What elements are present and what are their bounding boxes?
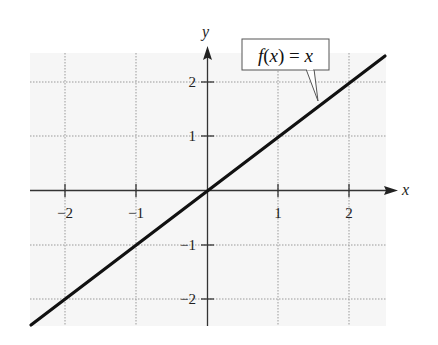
y-tick-label-2: 2 (189, 74, 197, 90)
x-tick-label-m1: −1 (128, 205, 144, 221)
x-tick-label-m2: −2 (57, 205, 73, 221)
x-axis-label: x (401, 181, 409, 198)
y-tick-label-m1: −1 (180, 237, 196, 253)
y-tick-label-1: 1 (189, 128, 197, 144)
x-tick-label-2: 2 (345, 205, 353, 221)
callout-label: f(x) = x (258, 45, 314, 67)
y-axis-label: y (200, 23, 210, 41)
function-graph: x y −2 −1 1 2 2 1 −1 −2 f(x) = x (0, 0, 438, 345)
x-axis-arrow-icon (384, 186, 398, 195)
x-tick-label-1: 1 (274, 205, 282, 221)
y-tick-label-m2: −2 (180, 291, 196, 307)
